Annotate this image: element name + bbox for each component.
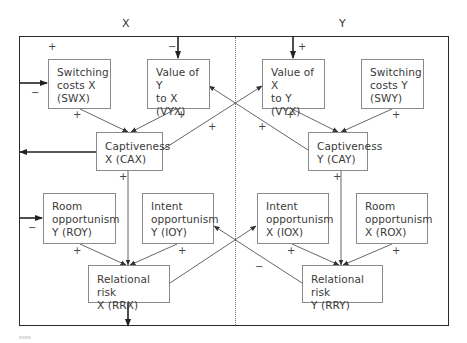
node-value-of-y-to-x: Value of Y to X (VYX) (147, 59, 210, 109)
node-intent-opportunism-x: Intent opportunism X (IOX) (257, 193, 329, 244)
node-switching-costs-y: Switching costs Y (SWY) (361, 59, 424, 109)
node-captiveness-x: Captiveness X (CAX) (96, 132, 163, 171)
node-intent-opportunism-y: Intent opportunism Y (IOY) (142, 193, 214, 244)
edge-swy-cay (341, 109, 392, 132)
node-switching-costs-x: Switching costs X (SWX) (48, 59, 111, 109)
sign-cax-down: + (119, 172, 127, 182)
sign-vxy-to-cay: + (286, 110, 294, 120)
edge-roy-rrx (80, 244, 126, 265)
sign-swx-in-left: − (31, 88, 39, 98)
sign-roy-to-rrx: + (73, 246, 81, 256)
edge-swx-cax (80, 109, 128, 132)
node-value-of-x-to-y: Value of X to Y (VYX) (262, 59, 325, 109)
edge-rox-rry (343, 244, 392, 265)
sign-iox-to-rry: + (287, 246, 295, 256)
sign-swy-to-cay: + (392, 110, 400, 120)
sign-vyx-in: − (168, 42, 176, 52)
sign-roy-in: − (28, 223, 36, 233)
node-relational-risk-y: Relational risk Y (RRY) (302, 265, 383, 303)
sign-cax-to-vxy: + (208, 122, 216, 132)
edge-ioy-rrx (130, 244, 177, 265)
sign-ioy-to-rrx: + (178, 246, 186, 256)
sign-vxy-in: + (298, 42, 306, 52)
sign-cay-to-vyx: + (258, 122, 266, 132)
edge-iox-rry (292, 244, 339, 265)
node-room-opportunism-x: Room opportunism X (ROX) (356, 193, 428, 244)
node-captiveness-y: Captiveness Y (CAY) (308, 132, 368, 171)
sign-rry-to-ioy: − (255, 262, 263, 272)
diagram-links (0, 0, 467, 343)
node-room-opportunism-y: Room opportunism Y (ROY) (43, 193, 116, 244)
sign-vyx-to-cax: + (177, 110, 185, 120)
sign-swx-to-cax: + (73, 110, 81, 120)
sign-rox-to-rry: + (392, 246, 400, 256)
node-relational-risk-x: Relational risk X (RRX) (88, 265, 170, 303)
footnote-mark (19, 336, 31, 339)
sign-swx-in-top: + (48, 42, 56, 52)
sign-cay-down: + (333, 172, 341, 182)
